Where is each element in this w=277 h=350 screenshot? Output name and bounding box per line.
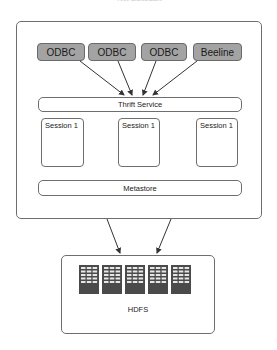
server-icon: [102, 265, 122, 294]
client-label: ODBC: [98, 47, 127, 58]
arrow-server-hdfs-right: [157, 219, 171, 253]
metastore[interactable]: Metastore: [38, 180, 242, 196]
session-box-3[interactable]: Session 1: [196, 118, 238, 167]
client-odbc-1[interactable]: ODBC: [37, 43, 85, 61]
session-label: Session 1: [122, 121, 155, 130]
caption-top: Hive architecture: [100, 0, 180, 4]
client-label: Beeline: [201, 47, 234, 58]
client-beeline[interactable]: Beeline: [193, 43, 242, 61]
server-icon: [148, 265, 168, 294]
metastore-label: Metastore: [123, 184, 156, 193]
server-icon: [125, 265, 145, 294]
hdfs-label: HDFS: [61, 305, 215, 317]
client-odbc-2[interactable]: ODBC: [88, 43, 136, 61]
session-label: Session 1: [200, 121, 233, 130]
client-label: ODBC: [47, 47, 76, 58]
thrift-service-label: Thrift Service: [118, 100, 162, 109]
server-icon: [171, 265, 191, 294]
client-odbc-3[interactable]: ODBC: [141, 43, 187, 61]
server-icon: [79, 265, 99, 294]
session-box-1[interactable]: Session 1: [41, 118, 84, 167]
thrift-service[interactable]: Thrift Service: [38, 97, 242, 112]
session-box-2[interactable]: Session 1: [118, 118, 160, 167]
session-label: Session 1: [45, 121, 78, 130]
arrow-server-hdfs-left: [107, 219, 120, 253]
client-label: ODBC: [150, 47, 179, 58]
